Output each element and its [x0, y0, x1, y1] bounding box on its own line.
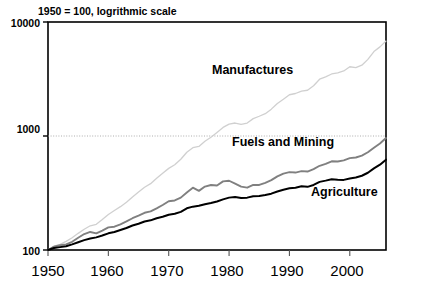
chart-title: 1950 = 100, logrithmic scale — [38, 5, 177, 17]
x-tick-label-1970: 1970 — [137, 262, 197, 279]
series-label-fuels-and-mining: Fuels and Mining — [232, 135, 334, 149]
chart-plot-area — [0, 0, 425, 290]
y-tick-label-1000: 1000 — [0, 123, 40, 135]
x-axis-ticks — [48, 250, 350, 256]
chart-container: 1950 = 100, logrithmic scale 10000 1000 … — [0, 0, 425, 290]
x-tick-label-1950: 1950 — [18, 262, 78, 279]
series-label-agriculture: Agriculture — [311, 185, 378, 199]
y-tick-label-10000: 10000 — [0, 17, 40, 29]
x-tick-label-2000: 2000 — [317, 262, 377, 279]
x-tick-label-1980: 1980 — [197, 262, 257, 279]
x-tick-label-1960: 1960 — [77, 262, 137, 279]
x-tick-label-1990: 1990 — [257, 262, 317, 279]
y-tick-label-100: 100 — [0, 245, 40, 257]
series-label-manufactures: Manufactures — [212, 63, 293, 77]
